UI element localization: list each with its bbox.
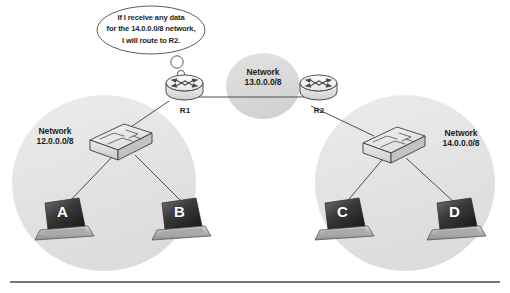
host-a-label: A	[57, 203, 68, 220]
callout-line-3: I will route to R2.	[97, 35, 205, 46]
host-b-label: B	[174, 203, 185, 220]
zone-middle-label-line1: Network	[230, 67, 296, 77]
zone-left-label: Network 12.0.0.0/8	[20, 126, 90, 146]
host-c-label: C	[337, 203, 348, 220]
callout-tail-large	[171, 56, 183, 68]
zone-left-label-line2: 12.0.0.0/8	[20, 136, 90, 146]
router-r2-label: R2	[304, 106, 334, 115]
zone-right-label-line1: Network	[428, 128, 494, 138]
router-r2-icon	[300, 75, 337, 100]
callout-text: If I receive any data for the 14.0.0.0/8…	[97, 12, 205, 46]
network-diagram: If I receive any data for the 14.0.0.0/8…	[0, 0, 510, 293]
host-d-label: D	[449, 203, 460, 220]
zone-middle-label: Network 13.0.0.0/8	[230, 67, 296, 87]
zone-right-label: Network 14.0.0.0/8	[428, 128, 494, 148]
zone-right	[315, 95, 495, 271]
router-r1-icon	[166, 75, 203, 100]
callout-line-1: If I receive any data	[97, 12, 205, 23]
callout-line-2: for the 14.0.0.0/8 network,	[97, 23, 205, 34]
zone-middle-label-line2: 13.0.0.0/8	[230, 77, 296, 87]
zone-right-label-line2: 14.0.0.0/8	[428, 138, 494, 148]
zone-left	[12, 95, 196, 271]
zone-left-label-line1: Network	[20, 126, 90, 136]
router-r1-label: R1	[170, 106, 200, 115]
